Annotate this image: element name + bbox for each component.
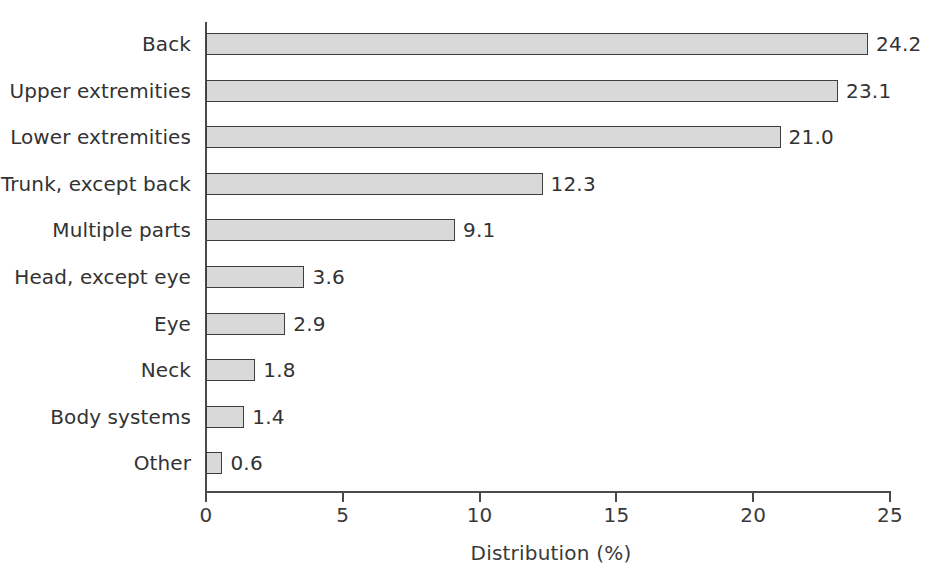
bar — [206, 126, 781, 148]
bar-value-label: 1.8 — [263, 358, 295, 382]
bar — [206, 313, 285, 335]
bar-row: Trunk, except back12.3 — [0, 172, 938, 196]
x-axis-tick — [889, 493, 891, 502]
x-axis-tick-label: 25 — [877, 503, 903, 527]
bar-value-label: 1.4 — [252, 404, 284, 428]
bar-row: Upper extremities23.1 — [0, 79, 938, 103]
x-axis-tick-label: 20 — [740, 503, 766, 527]
bar-value-label: 21.0 — [789, 125, 834, 149]
bar-value-label: 12.3 — [551, 171, 596, 195]
bar-row: Eye2.9 — [0, 312, 938, 336]
bar-value-label: 3.6 — [312, 265, 344, 289]
x-axis-title-text: Distribution (%) — [471, 541, 632, 565]
category-label: Multiple parts — [52, 218, 191, 242]
category-label: Other — [134, 451, 191, 475]
x-axis-title: Distribution (%) — [0, 541, 938, 565]
category-label: Eye — [154, 311, 191, 335]
bar-row: Neck1.8 — [0, 358, 938, 382]
x-axis-tick-label: 5 — [336, 503, 349, 527]
bar-value-label: 23.1 — [846, 78, 891, 102]
bar-row: Back24.2 — [0, 32, 938, 56]
bar-value-label: 24.2 — [876, 32, 921, 56]
bar-row: Multiple parts9.1 — [0, 218, 938, 242]
bar — [206, 406, 244, 428]
x-axis-tick-label: 15 — [603, 503, 629, 527]
category-label: Lower extremities — [10, 125, 191, 149]
bar-row: Other0.6 — [0, 451, 938, 475]
x-axis-tick-label: 0 — [200, 503, 213, 527]
bar — [206, 219, 455, 241]
x-axis-tick-label: 10 — [467, 503, 493, 527]
category-label: Body systems — [50, 404, 191, 428]
x-axis-tick — [752, 493, 754, 502]
bar — [206, 359, 255, 381]
bar — [206, 33, 868, 55]
bar-value-label: 0.6 — [230, 451, 262, 475]
category-label: Trunk, except back — [1, 171, 191, 195]
bar-value-label: 9.1 — [463, 218, 495, 242]
bar — [206, 452, 222, 474]
bar-row: Lower extremities21.0 — [0, 125, 938, 149]
category-label: Head, except eye — [14, 265, 191, 289]
bar-row: Body systems1.4 — [0, 405, 938, 429]
bar-row: Head, except eye3.6 — [0, 265, 938, 289]
category-label: Neck — [141, 358, 191, 382]
x-axis-tick — [342, 493, 344, 502]
x-axis-tick — [205, 493, 207, 502]
bar — [206, 80, 838, 102]
bar — [206, 173, 543, 195]
x-axis-tick — [479, 493, 481, 502]
x-axis-line — [206, 491, 891, 493]
category-label: Back — [142, 32, 191, 56]
category-label: Upper extremities — [10, 78, 192, 102]
bar — [206, 266, 304, 288]
bar-chart: 0510152025 Back24.2Upper extremities23.1… — [0, 0, 938, 578]
bar-value-label: 2.9 — [293, 311, 325, 335]
x-axis-tick — [615, 493, 617, 502]
